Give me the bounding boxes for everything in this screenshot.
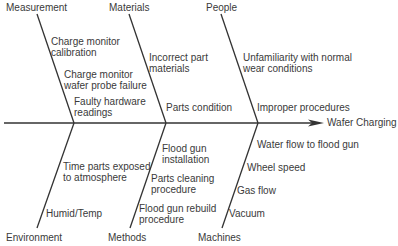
cause-line: Faulty hardware bbox=[74, 96, 146, 107]
cause-line: materials bbox=[149, 63, 208, 74]
category-people: People bbox=[206, 2, 237, 13]
cause-vacuum: Vacuum bbox=[229, 208, 265, 219]
cause-charge-monitor-probe-failure: Charge monitor wafer probe failure bbox=[64, 69, 147, 91]
fishbone-diagram: Measurement Materials People Environment… bbox=[0, 0, 398, 246]
cause-line: Parts cleaning bbox=[151, 173, 214, 184]
cause-flood-gun-installation: Flood gun installation bbox=[162, 143, 209, 165]
cause-humid-temp: Humid/Temp bbox=[46, 208, 102, 219]
cause-parts-cleaning-procedure: Parts cleaning procedure bbox=[151, 173, 214, 195]
cause-water-flow-to-flood-gun: Water flow to flood gun bbox=[257, 139, 359, 150]
cause-charge-monitor-calibration: Charge monitor calibration bbox=[51, 36, 120, 58]
cause-line: calibration bbox=[51, 47, 120, 58]
category-measurement: Measurement bbox=[6, 2, 67, 13]
cause-line: wafer probe failure bbox=[64, 80, 147, 91]
cause-improper-procedures: Improper procedures bbox=[257, 102, 350, 113]
cause-faulty-hardware-readings: Faulty hardware readings bbox=[74, 96, 146, 118]
cause-gas-flow: Gas flow bbox=[237, 185, 276, 196]
cause-line: procedure bbox=[151, 184, 214, 195]
category-materials: Materials bbox=[109, 2, 150, 13]
cause-unfamiliarity-wear-conditions: Unfamiliarity with normal wear condition… bbox=[243, 52, 352, 74]
category-methods: Methods bbox=[108, 232, 146, 243]
cause-line: readings bbox=[74, 107, 146, 118]
cause-line: Time parts exposed bbox=[63, 161, 150, 172]
cause-line: procedure bbox=[139, 214, 216, 225]
cause-line: Flood gun bbox=[162, 143, 209, 154]
category-environment: Environment bbox=[6, 232, 62, 243]
cause-flood-gun-rebuild-procedure: Flood gun rebuild procedure bbox=[139, 203, 216, 225]
cause-line: Incorrect part bbox=[149, 52, 208, 63]
cause-line: Unfamiliarity with normal bbox=[243, 52, 352, 63]
cause-parts-condition: Parts condition bbox=[166, 102, 232, 113]
cause-line: Flood gun rebuild bbox=[139, 203, 216, 214]
cause-line: Charge monitor bbox=[51, 36, 120, 47]
effect-label: Wafer Charging bbox=[327, 117, 397, 128]
cause-wheel-speed: Wheel speed bbox=[247, 162, 305, 173]
cause-line: Charge monitor bbox=[64, 69, 147, 80]
cause-line: wear conditions bbox=[243, 63, 352, 74]
cause-line: to atmosphere bbox=[63, 172, 150, 183]
category-machines: Machines bbox=[198, 232, 241, 243]
cause-line: installation bbox=[162, 154, 209, 165]
cause-incorrect-part-materials: Incorrect part materials bbox=[149, 52, 208, 74]
cause-time-parts-exposed: Time parts exposed to atmosphere bbox=[63, 161, 150, 183]
